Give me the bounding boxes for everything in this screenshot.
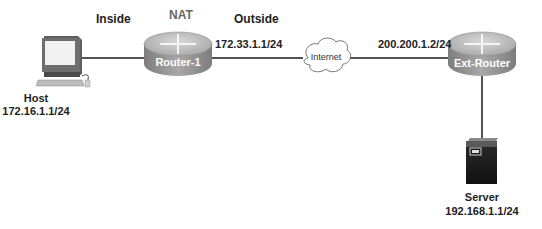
ext-router-icon: Ext-Router [448,32,516,76]
router-1-icon: Router-1 [144,32,212,76]
inside-zone-label: Inside [96,12,131,26]
ext-router-ip: 200.200.1.2/24 [378,38,451,50]
host-pc-icon [36,36,90,87]
host-ip: 172.16.1.1/24 [2,105,69,117]
internet-cloud-icon: Internet [304,38,351,72]
router-1-outside-ip: 172.33.1.1/24 [215,38,282,50]
internet-label: Internet [311,52,342,62]
server-icon [466,138,498,184]
host-name: Host [24,92,48,104]
nat-label: NAT [169,8,193,22]
network-diagram: Router-1 Internet Ext-Router [0,0,542,229]
ext-router-label: Ext-Router [454,57,511,69]
server-name: Server [465,191,499,203]
server-ip: 192.168.1.1/24 [445,205,518,217]
router-1-label: Router-1 [155,56,200,68]
outside-zone-label: Outside [234,12,279,26]
